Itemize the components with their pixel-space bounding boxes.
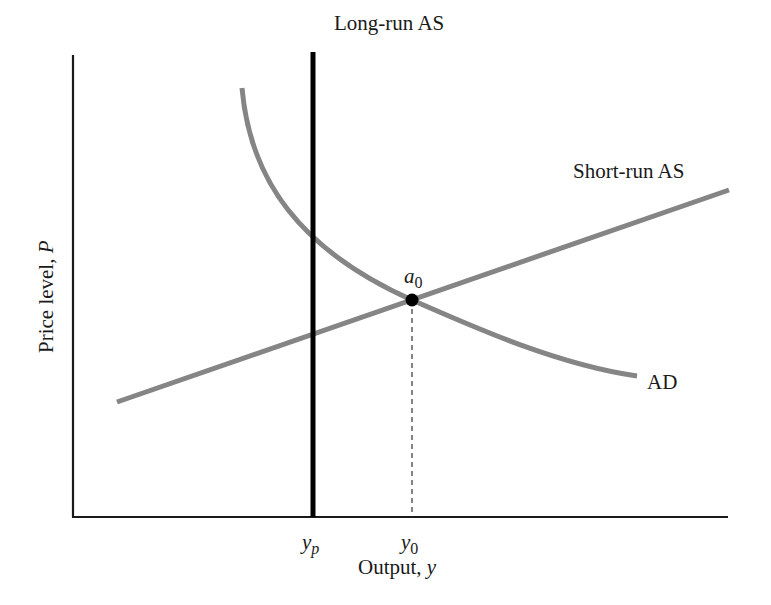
ad-label: AD: [647, 370, 677, 394]
equilibrium-point: [406, 294, 419, 307]
tick-yp: yp: [300, 530, 319, 558]
x-axis-label: Output, y: [358, 555, 437, 579]
y-axis-label: Price level, P: [34, 240, 58, 353]
tick-y0: y0: [399, 530, 418, 557]
short-run-as-label: Short-run AS: [573, 159, 684, 183]
ad-curve: [242, 88, 637, 376]
long-run-as-label: Long-run AS: [334, 11, 444, 35]
ad-as-diagram: Long-run AS Short-run AS AD a0 yp y0 Out…: [0, 0, 771, 605]
short-run-as-curve: [117, 190, 729, 402]
equilibrium-label: a0: [404, 264, 423, 291]
